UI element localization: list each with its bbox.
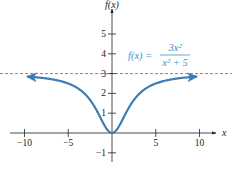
equation-label: f(x) = 3x² x² + 5: [128, 42, 190, 68]
x-tick-label: −10: [17, 138, 32, 148]
equation-numerator: 3x²: [167, 42, 182, 53]
x-tick-label: 10: [195, 138, 205, 148]
y-axis-label: f(x): [105, 0, 120, 11]
y-tick-label: 2: [101, 88, 106, 98]
x-tick-label: −5: [63, 138, 73, 148]
y-tick-label: 5: [101, 29, 106, 39]
y-ticks: −112345: [96, 29, 116, 158]
x-tick-label: 5: [153, 138, 158, 148]
x-axis-label: x: [221, 127, 227, 138]
equation-denominator: x² + 5: [161, 57, 187, 68]
y-tick-label: 3: [101, 69, 106, 79]
y-tick-label: 1: [101, 108, 106, 118]
function-graph: −10−5510 −112345 x f(x) f(x) = 3x² x² + …: [0, 0, 232, 175]
y-tick-label: 4: [101, 49, 106, 59]
equation-lhs: f(x) =: [128, 50, 152, 62]
y-tick-label: −1: [96, 148, 106, 158]
